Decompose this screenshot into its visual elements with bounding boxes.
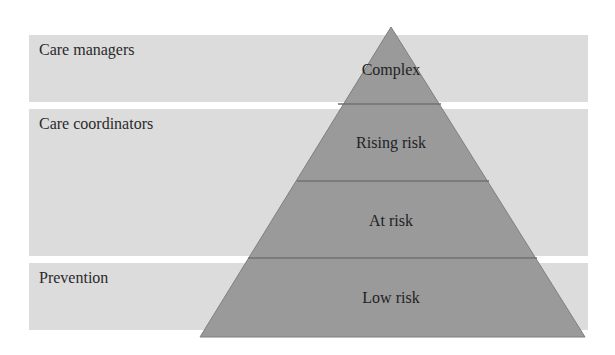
- risk-pyramid: Complex Rising risk At risk Low risk: [0, 0, 615, 355]
- tier-label-at-risk: At risk: [369, 212, 413, 229]
- tier-label-low-risk: Low risk: [362, 289, 419, 306]
- tier-label-complex: Complex: [362, 61, 421, 79]
- tier-label-rising-risk: Rising risk: [356, 134, 426, 152]
